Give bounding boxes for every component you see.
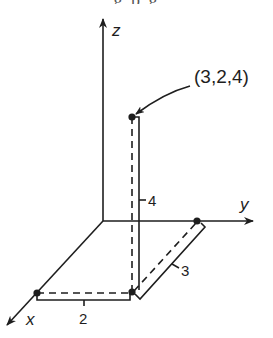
coordinate-diagram bbox=[0, 0, 273, 338]
point-label: (3,2,4) bbox=[194, 67, 249, 86]
x-length-label: 2 bbox=[79, 311, 87, 326]
z-height-bracket bbox=[133, 117, 139, 290]
x-axis bbox=[7, 221, 103, 325]
y-length-label: 3 bbox=[181, 263, 189, 278]
point-foot-xy bbox=[128, 288, 135, 295]
point-3-2-4 bbox=[128, 113, 135, 120]
point-on-y-axis bbox=[193, 217, 200, 224]
x-length-bracket bbox=[37, 293, 130, 300]
point-leader-arrow bbox=[136, 86, 190, 114]
x-axis-label: x bbox=[26, 311, 35, 328]
point-on-x-axis bbox=[33, 289, 40, 296]
z-length-label: 4 bbox=[148, 193, 156, 208]
y-length-bracket bbox=[135, 223, 205, 299]
z-axis-label: z bbox=[112, 22, 121, 39]
y-length-tick bbox=[172, 264, 179, 268]
y-axis-label: y bbox=[240, 196, 249, 213]
y-projection-dashed-line bbox=[134, 223, 196, 291]
